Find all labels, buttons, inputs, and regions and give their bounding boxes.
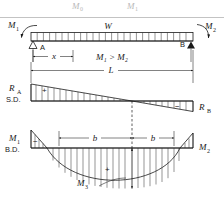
end-moment-left-label: M: [7, 20, 16, 30]
end-moment-right-label: M: [204, 21, 213, 31]
bending-moment-left-label: M: [8, 133, 17, 143]
support-label-b: B: [180, 40, 185, 49]
bending-moment-right-label: M: [198, 142, 207, 152]
shear-reaction-left-sub: A: [17, 89, 22, 95]
dimension-b-left-label: b: [93, 133, 98, 143]
dimension-b-right-label: b: [151, 133, 156, 143]
cutoff-label-left: M: [71, 1, 80, 11]
end-moment-left-sub: 1: [16, 26, 19, 32]
cutoff-label-right: M: [126, 1, 135, 11]
bending-sign-negative-left: −: [33, 137, 38, 146]
shear-reaction-right-sub: B: [207, 108, 211, 114]
m3-label: M: [76, 178, 85, 188]
dimension-x-label: x: [51, 51, 56, 61]
shear-sign-positive: +: [42, 86, 47, 95]
bending-row-label: B.D.: [5, 145, 20, 154]
shear-reaction-left-label: R: [8, 83, 15, 93]
figure-background: [0, 0, 224, 206]
distributed-load-block: [31, 33, 193, 42]
shear-row-label: S.D.: [6, 95, 21, 104]
bending-moment-right-sub: 2: [207, 148, 210, 154]
end-moment-right-sub: 2: [213, 27, 216, 33]
support-label-a: A: [40, 43, 45, 52]
shear-reaction-right-label: R: [198, 102, 205, 112]
bending-sign-positive: +: [105, 165, 110, 174]
dimension-l-label: L: [107, 65, 113, 75]
beam-analysis-figure: M 0 M 1: [0, 0, 224, 206]
bending-moment-left-sub: 1: [17, 139, 20, 145]
cutoff-label-right-sub: 1: [135, 6, 138, 12]
shear-sign-negative: −: [175, 102, 180, 111]
m3-label-sub: 3: [85, 184, 88, 190]
cutoff-label-left-sub: 0: [80, 6, 83, 12]
moment-condition-text: M₁ > M₂: [95, 52, 128, 62]
